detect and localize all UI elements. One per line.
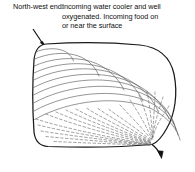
outflow-arrow xyxy=(152,145,163,159)
lake-circulation-diagram xyxy=(0,0,195,172)
lake-outline xyxy=(33,43,176,147)
diagram-page: North-west end: Incoming water cooler an… xyxy=(0,0,195,172)
